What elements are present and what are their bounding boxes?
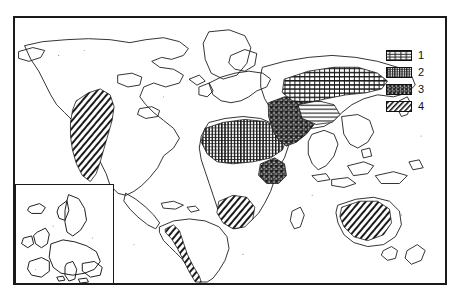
legend-item-1: 1 [386,48,444,63]
legend-label-4: 4 [418,101,424,112]
legend-label-2: 2 [418,67,424,78]
legend-item-2: 2 [386,65,444,80]
legend-label-3: 3 [418,84,424,95]
region-southern-africa [217,195,255,228]
europe-inset-canvas [16,185,113,284]
legend-swatch-2 [386,67,412,78]
legend-item-3: 3 [386,82,444,97]
map-legend: 1 2 [386,48,444,114]
legend-item-4: 4 [386,99,444,114]
region-andes [166,225,202,282]
legend-swatch-4 [386,101,412,112]
europe-inset [15,184,114,285]
map-frame [13,16,447,285]
legend-label-1: 1 [418,50,424,61]
region-australia-interior [340,201,392,240]
region-western-north-america [70,89,114,182]
legend-swatch-1 [386,50,412,61]
map-figure: 1 2 [0,0,460,301]
legend-swatch-3 [386,84,412,95]
region-central-asia [283,67,388,102]
